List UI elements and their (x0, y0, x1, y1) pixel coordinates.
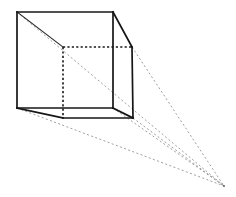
vanishing-point-marker (223, 185, 225, 187)
vanishing-point-dot (223, 185, 225, 187)
perspective-cube-figure (0, 0, 236, 197)
perspective-cube-drawing (0, 0, 236, 197)
back-face-right (132, 47, 133, 118)
canvas-background (0, 0, 236, 197)
